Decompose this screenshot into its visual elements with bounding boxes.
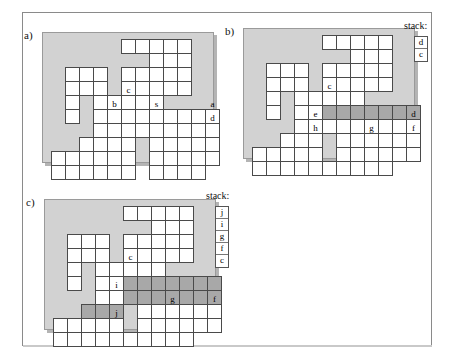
grid-cell[interactable] [392, 133, 407, 148]
grid-cell[interactable] [163, 53, 178, 68]
grid-cell[interactable] [149, 39, 164, 54]
grid-cell[interactable] [109, 332, 124, 347]
grid-cell[interactable] [364, 49, 379, 64]
grid-cell-highlighted[interactable] [151, 276, 166, 291]
grid-cell[interactable] [336, 133, 351, 148]
grid-cell[interactable] [121, 151, 136, 166]
grid-cell[interactable] [207, 318, 222, 333]
grid-cell[interactable] [137, 332, 152, 347]
grid-cell[interactable] [280, 77, 295, 92]
grid-cell[interactable] [81, 248, 96, 263]
grid-cell[interactable] [165, 332, 180, 347]
grid-cell[interactable] [364, 147, 379, 162]
grid-cell[interactable] [177, 109, 192, 124]
grid-cell[interactable] [191, 137, 206, 152]
grid-cell[interactable] [81, 234, 96, 249]
stack-item[interactable]: f [216, 243, 228, 255]
grid-cell[interactable] [121, 67, 136, 82]
grid-cell-highlighted[interactable] [193, 290, 208, 305]
grid-cell[interactable] [266, 161, 281, 176]
grid-cell[interactable] [336, 119, 351, 134]
grid-cell[interactable] [378, 161, 393, 176]
grid-cell[interactable] [322, 63, 337, 78]
grid-cell[interactable] [350, 77, 365, 92]
stack-item[interactable]: i [216, 219, 228, 231]
grid-cell[interactable] [336, 147, 351, 162]
grid-cell[interactable] [123, 332, 138, 347]
grid-cell[interactable] [109, 262, 124, 277]
grid-cell[interactable] [107, 137, 122, 152]
grid-cell[interactable] [294, 91, 309, 106]
grid-cell[interactable] [67, 262, 82, 277]
grid-cell[interactable] [266, 105, 281, 120]
grid-cell[interactable] [109, 318, 124, 333]
grid-cell[interactable] [350, 119, 365, 134]
grid-cell[interactable] [79, 81, 94, 96]
grid-cell[interactable] [191, 151, 206, 166]
grid-cell[interactable] [266, 147, 281, 162]
grid-cell[interactable] [137, 304, 152, 319]
grid-cell[interactable] [378, 49, 393, 64]
grid-cell[interactable] [95, 262, 110, 277]
grid-cell[interactable] [51, 165, 66, 180]
grid-cell[interactable] [336, 35, 351, 50]
grid-cell-highlighted[interactable] [336, 105, 351, 120]
grid-cell[interactable] [151, 262, 166, 277]
grid-cell[interactable] [378, 119, 393, 134]
grid-cell[interactable] [149, 123, 164, 138]
grid-cell[interactable] [137, 318, 152, 333]
grid-cell[interactable] [308, 147, 323, 162]
grid-cell[interactable] [165, 304, 180, 319]
grid-cell[interactable] [135, 81, 150, 96]
grid-cell[interactable] [165, 206, 180, 221]
grid-cell-highlighted[interactable] [364, 105, 379, 120]
grid-cell[interactable] [207, 304, 222, 319]
grid-cell[interactable] [364, 133, 379, 148]
grid-cell[interactable] [378, 147, 393, 162]
grid-cell[interactable] [336, 161, 351, 176]
grid-cell[interactable] [336, 63, 351, 78]
grid-cell[interactable] [280, 133, 295, 148]
grid-cell-highlighted[interactable] [350, 105, 365, 120]
grid-cell-highlighted[interactable] [123, 276, 138, 291]
grid-cell[interactable] [93, 81, 108, 96]
grid-cell[interactable] [67, 332, 82, 347]
grid-cell-highlighted[interactable] [81, 304, 96, 319]
grid-cell[interactable] [65, 67, 80, 82]
grid-cell[interactable] [406, 147, 421, 162]
grid-cell[interactable] [322, 91, 337, 106]
grid-cell[interactable] [179, 332, 194, 347]
grid-cell[interactable] [65, 95, 80, 110]
grid-cell[interactable] [179, 318, 194, 333]
grid-cell-highlighted[interactable] [165, 276, 180, 291]
grid-cell[interactable] [121, 95, 136, 110]
grid-cell[interactable] [280, 147, 295, 162]
grid-cell[interactable] [294, 105, 309, 120]
grid-cell[interactable] [191, 123, 206, 138]
grid-cell[interactable] [252, 147, 267, 162]
grid-cell[interactable] [193, 318, 208, 333]
grid-cell[interactable] [336, 77, 351, 92]
grid-cell[interactable] [179, 248, 194, 263]
grid-cell[interactable] [392, 119, 407, 134]
stack-item[interactable]: c [216, 255, 228, 267]
grid-cell-highlighted[interactable] [137, 290, 152, 305]
grid-cell[interactable] [107, 123, 122, 138]
grid-cell[interactable] [205, 151, 220, 166]
grid-cell[interactable] [93, 109, 108, 124]
grid-cell[interactable] [163, 165, 178, 180]
grid-cell[interactable] [67, 234, 82, 249]
grid-cell[interactable] [364, 35, 379, 50]
grid-cell[interactable] [266, 63, 281, 78]
grid-cell[interactable] [149, 81, 164, 96]
grid-cell[interactable] [165, 248, 180, 263]
grid-cell[interactable] [149, 137, 164, 152]
grid-cell[interactable] [177, 165, 192, 180]
grid-cell[interactable] [177, 81, 192, 96]
grid-cell-highlighted[interactable] [179, 276, 194, 291]
grid-cell[interactable] [135, 95, 150, 110]
grid-cell[interactable] [392, 147, 407, 162]
grid-cell[interactable] [67, 318, 82, 333]
grid-cell[interactable] [149, 53, 164, 68]
grid-cell[interactable] [95, 234, 110, 249]
